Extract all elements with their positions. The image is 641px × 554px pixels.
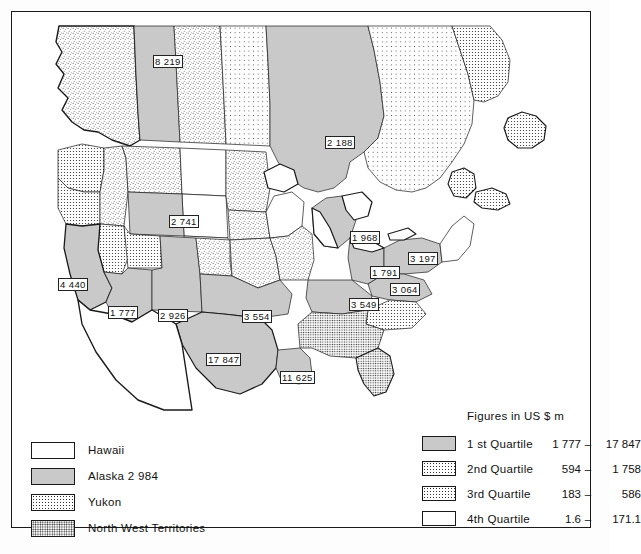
region-florida: [356, 348, 394, 396]
quartile-range-dash: –: [581, 438, 595, 450]
quartile-name: 4th Quartile: [467, 513, 541, 525]
legend-swatch-white: [31, 442, 75, 459]
legend-special-regions: HawaiiAlaska 2 984YukonNorth West Territ…: [31, 437, 281, 541]
map-value-2741: 2 741: [169, 215, 199, 228]
map-value-3197: 3 197: [408, 252, 438, 265]
map-value-3549: 3 549: [349, 298, 379, 311]
region-alberta: [134, 26, 180, 142]
map-value-2926: 2 926: [158, 309, 188, 322]
figure-units-note: Figures in US $ m: [467, 410, 602, 422]
legend-quartile-row: 3rd Quartile183–586: [422, 481, 602, 506]
quartile-high-value: 586: [595, 488, 641, 500]
region-iowa: [228, 210, 270, 240]
legend-quartile-row: 4th Quartile1.6–171.1: [422, 506, 602, 531]
quartile-range-dash: –: [581, 488, 595, 500]
quartile-range-dash: –: [581, 463, 595, 475]
region-british-columbia: [56, 26, 140, 146]
map-value-8219: 8 219: [153, 55, 183, 68]
map-value-11625: 11 625: [280, 371, 315, 384]
lake-ontario: [388, 228, 416, 240]
quartile-low-value: 1.6: [541, 513, 581, 525]
legend-region-row: Hawaii: [31, 437, 281, 463]
legend-swatch-dots-fine: [31, 494, 75, 511]
quartile-name: 1 st Quartile: [467, 438, 541, 450]
map-value-1968: 1 968: [350, 231, 380, 244]
region-wyoming-colorado: [128, 192, 184, 236]
legend-region-label: North West Territories: [88, 522, 205, 534]
region-kansas: [196, 238, 232, 276]
quartile-rows: 1 st Quartile1 777–17 8472nd Quartile594…: [422, 431, 602, 531]
quartile-low-value: 183: [541, 488, 581, 500]
quartile-swatch-4: [422, 511, 456, 526]
figure-frame: 8 2192 1882 7411 9683 1971 7913 0644 440…: [11, 11, 591, 528]
region-idaho: [100, 146, 128, 226]
region-minnesota: [226, 150, 270, 212]
legend-region-label: Hawaii: [88, 444, 124, 456]
quartile-swatch-1: [422, 436, 456, 451]
quartile-high-value: 171.1: [595, 513, 641, 525]
map-vector: [12, 12, 590, 412]
legend-region-row: Alaska 2 984: [31, 463, 281, 489]
legend-swatch-gray: [31, 468, 75, 485]
quartile-swatch-2: [422, 461, 456, 476]
legend-region-label: Alaska 2 984: [88, 470, 158, 482]
quartile-low-value: 1 777: [541, 438, 581, 450]
legend-swatch-dots-coarse: [31, 520, 75, 537]
region-new-england: [440, 216, 474, 262]
map-value-3064: 3 064: [390, 283, 420, 296]
north-america-map: 8 2192 1882 7411 9683 1971 7913 0644 440…: [12, 12, 590, 412]
quartile-high-value: 1 758: [595, 463, 641, 475]
region-saskatchewan: [174, 26, 226, 144]
map-value-3554: 3 554: [242, 310, 272, 323]
map-value-4440: 4 440: [58, 278, 88, 291]
legend-region-row: Yukon: [31, 489, 281, 515]
quartile-range-dash: –: [581, 513, 595, 525]
region-newfoundland: [504, 112, 546, 148]
map-value-2188: 2 188: [325, 136, 355, 149]
region-nova-scotia: [474, 188, 510, 210]
legend-quartile-row: 2nd Quartile594–1 758: [422, 456, 602, 481]
region-manitoba: [220, 26, 270, 146]
region-new-brunswick: [448, 168, 476, 198]
quartile-swatch-3: [422, 486, 456, 501]
map-value-1777: 1 777: [108, 306, 138, 319]
legend-region-label: Yukon: [88, 496, 121, 508]
region-north-dakota: [180, 148, 226, 196]
map-value-1791: 1 791: [370, 266, 400, 279]
quartile-name: 3rd Quartile: [467, 488, 541, 500]
quartile-low-value: 594: [541, 463, 581, 475]
quartile-name: 2nd Quartile: [467, 463, 541, 475]
legend-quartiles: Figures in US $ m 1 st Quartile1 777–17 …: [422, 410, 602, 531]
region-montana: [122, 146, 182, 194]
legend-region-row: North West Territories: [31, 515, 281, 541]
quartile-high-value: 17 847: [595, 438, 641, 450]
legend-quartile-row: 1 st Quartile1 777–17 847: [422, 431, 602, 456]
map-value-17847: 17 847: [206, 353, 241, 366]
